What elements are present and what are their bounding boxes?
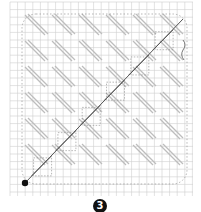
stitch-diagram <box>0 0 201 200</box>
step-number-badge: 3 <box>93 199 107 212</box>
